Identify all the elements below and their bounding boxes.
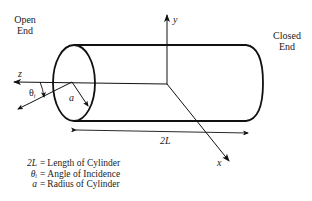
closed-end-label-2: End — [279, 41, 295, 52]
open-end-label-2: End — [17, 25, 33, 36]
radius-line — [72, 82, 88, 106]
closed-end-label-1: Closed — [273, 30, 301, 41]
legend-symbol: θᵢ — [8, 169, 38, 180]
legend-row-radius: a = Radius of Cylinder — [8, 179, 120, 190]
open-end-label-1: Open — [14, 14, 36, 25]
x-axis-label: x — [216, 157, 222, 168]
legend-definition: Length of Cylinder — [47, 158, 120, 169]
theta-label: θi — [29, 87, 36, 99]
z-axis — [14, 82, 167, 84]
equals-sign: = — [38, 179, 47, 190]
equals-sign: = — [38, 158, 47, 169]
legend-definition: Angle of Incidence — [47, 169, 120, 180]
legend-symbol: 2L — [8, 158, 38, 169]
equals-sign: = — [38, 169, 47, 180]
incidence-ray — [18, 82, 72, 109]
legend: 2L = Length of Cylinder θᵢ = Angle of In… — [8, 158, 120, 190]
length-label: 2L — [160, 135, 171, 146]
y-axis-label: y — [172, 14, 178, 25]
z-axis-label: z — [17, 68, 22, 79]
legend-row-length: 2L = Length of Cylinder — [8, 158, 120, 169]
radius-label: a — [69, 92, 74, 103]
theta-arc — [40, 82, 44, 97]
legend-definition: Radius of Cylinder — [47, 179, 119, 190]
legend-symbol: a — [8, 179, 38, 190]
length-dimension-arrow — [76, 130, 248, 133]
x-axis — [167, 84, 229, 161]
legend-row-angle: θᵢ = Angle of Incidence — [8, 169, 120, 180]
